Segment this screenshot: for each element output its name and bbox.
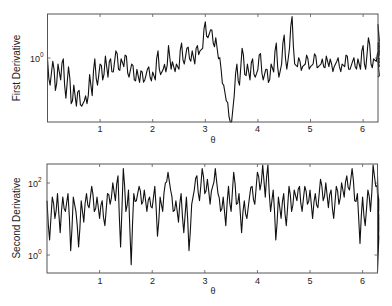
top-xtick-label: 3: [202, 124, 207, 134]
bottom-xtick-label: 5: [307, 276, 312, 286]
bottom-xtick-label: 2: [150, 276, 155, 286]
figure: 100 First Derivative θ 1 2 3 4 5 6 102 1…: [0, 0, 392, 306]
top-xtick-label: 5: [307, 124, 312, 134]
bottom-ytick-label-lo: 100: [28, 248, 42, 261]
bottom-x-ticks: [100, 164, 363, 273]
top-x-ticks: [100, 14, 363, 122]
top-xtick-label: 1: [97, 124, 102, 134]
bottom-axes-frame: [47, 164, 378, 273]
top-panel: 100 First Derivative θ 1 2 3 4 5 6: [11, 14, 379, 145]
top-axes-frame: [48, 14, 379, 122]
bottom-xtick-label: 3: [202, 276, 207, 286]
bottom-xtick-label: 6: [360, 276, 365, 286]
top-xtick-label: 4: [255, 124, 260, 134]
second-derivative-trace: [47, 165, 379, 272]
top-y-axis-label: First Derivative: [11, 34, 22, 101]
bottom-panel: 102 100 Second Derivative θ 1 2 3 4 5 6: [11, 164, 379, 296]
bottom-y-axis-label: Second Derivative: [11, 177, 22, 259]
bottom-xtick-label: 1: [97, 276, 102, 286]
top-ytick-label: 100: [30, 51, 44, 64]
top-x-axis-label: θ: [210, 135, 215, 145]
top-xtick-label: 2: [150, 124, 155, 134]
bottom-x-axis-label: θ: [210, 286, 215, 296]
bottom-ytick-label-hi: 102: [28, 176, 42, 189]
first-derivative-trace: [48, 17, 380, 122]
top-xtick-labels: 1 2 3 4 5 6: [97, 124, 365, 134]
bottom-xtick-labels: 1 2 3 4 5 6: [97, 276, 365, 286]
bottom-xtick-label: 4: [255, 276, 260, 286]
top-xtick-label: 6: [360, 124, 365, 134]
